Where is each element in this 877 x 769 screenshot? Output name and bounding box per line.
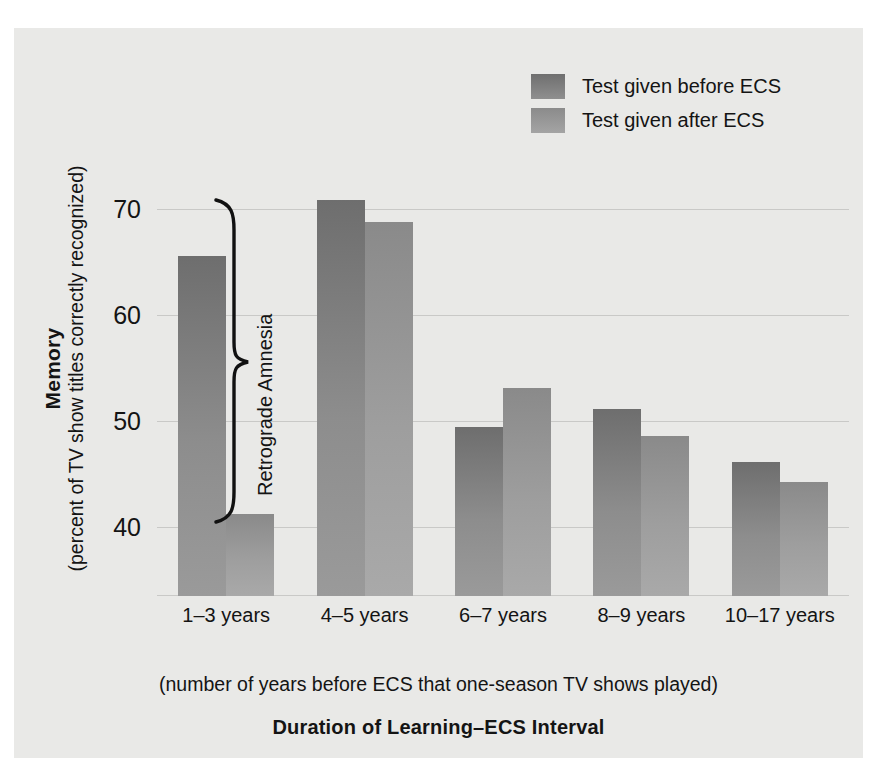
x-axis-category-label: 8–9 years <box>597 604 685 627</box>
x-axis-category-labels: 1–3 years4–5 years6–7 years8–9 years10–1… <box>157 604 849 636</box>
x-axis-title-sub: (number of years before ECS that one-sea… <box>14 673 863 696</box>
page-texture <box>54 30 854 46</box>
x-axis-category-label: 1–3 years <box>182 604 270 627</box>
retrograde-amnesia-annotation: Retrograde Amnesia <box>210 196 340 526</box>
bar <box>503 388 551 596</box>
bar <box>641 436 689 596</box>
legend-item: Test given after ECS <box>531 108 781 133</box>
bar <box>732 462 780 596</box>
y-axis-title: Memory (percent of TV show titles correc… <box>30 88 98 648</box>
y-axis-title-sub: (percent of TV show titles correctly rec… <box>65 165 88 571</box>
legend-label: Test given before ECS <box>582 75 781 98</box>
legend-label: Test given after ECS <box>582 109 764 132</box>
x-axis-category-label: 4–5 years <box>321 604 409 627</box>
bar <box>780 482 828 597</box>
legend: Test given before ECS Test given after E… <box>531 74 781 142</box>
legend-swatch-icon-after <box>531 108 565 133</box>
y-axis-tick-label: 50 <box>113 407 141 436</box>
legend-item: Test given before ECS <box>531 74 781 99</box>
bar <box>365 222 413 596</box>
bar <box>455 427 503 596</box>
y-axis-tick-label: 60 <box>113 301 141 330</box>
bar <box>226 514 274 596</box>
annotation-label: Retrograde Amnesia <box>254 196 280 496</box>
bar <box>593 409 641 596</box>
figure-panel: Memory (percent of TV show titles correc… <box>14 28 863 758</box>
x-axis-category-label: 10–17 years <box>725 604 835 627</box>
y-axis-title-main: Memory <box>41 165 65 571</box>
x-axis-category-label: 6–7 years <box>459 604 547 627</box>
x-axis-title-main: Duration of Learning–ECS Interval <box>14 716 863 739</box>
legend-swatch-icon-before <box>531 74 565 99</box>
y-axis-tick-label: 70 <box>113 195 141 224</box>
y-axis-tick-label: 40 <box>113 513 141 542</box>
